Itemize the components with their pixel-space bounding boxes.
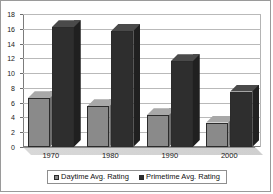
bar-front-face xyxy=(206,123,228,147)
bar-front-face xyxy=(230,92,252,147)
legend-label: Primetime Avg. Rating xyxy=(146,173,220,181)
legend-entry-daytime[interactable]: Daytime Avg. Rating xyxy=(54,173,129,181)
y-axis-tick-mark xyxy=(20,58,23,59)
y-axis-tick-label: 6 xyxy=(1,100,15,107)
x-axis-tick-label: 1980 xyxy=(79,152,141,160)
bar-1970-primetime xyxy=(52,20,74,147)
legend-label: Daytime Avg. Rating xyxy=(61,173,129,181)
y-axis-tick-mark xyxy=(20,117,23,118)
bar-side-face xyxy=(133,24,140,147)
y-axis-tick-label: 10 xyxy=(1,70,15,77)
y-axis-tick-label: 16 xyxy=(1,26,15,33)
y-axis-tick-mark xyxy=(20,88,23,89)
x-axis-tick-label: 2000 xyxy=(198,152,260,160)
y-axis-tick-label: 0 xyxy=(1,144,15,151)
bar-front-face xyxy=(28,98,50,147)
bar-1980-primetime xyxy=(111,24,133,147)
bar-front-face xyxy=(111,31,133,147)
bar-2000-daytime xyxy=(206,116,228,147)
chart-frame: 024681012141618 1970198019902000 Daytime… xyxy=(0,0,271,192)
legend-entry-primetime[interactable]: Primetime Avg. Rating xyxy=(139,173,220,181)
bar-front-face xyxy=(147,115,169,147)
bar-1990-daytime xyxy=(147,108,169,147)
y-axis-tick-mark xyxy=(20,44,23,45)
y-axis-tick-label: 2 xyxy=(1,129,15,136)
gridline xyxy=(23,14,261,15)
y-axis-tick-mark xyxy=(20,29,23,30)
bar-2000-primetime xyxy=(230,85,252,147)
legend-swatch-primetime xyxy=(139,175,144,180)
x-axis-tick-label: 1970 xyxy=(20,152,82,160)
bar-side-face xyxy=(193,54,200,147)
bar-1980-daytime xyxy=(87,99,109,147)
plot-area xyxy=(23,14,261,147)
bar-side-face xyxy=(74,20,81,147)
chart-floor-edge xyxy=(23,147,255,148)
plot-right-border xyxy=(260,14,261,147)
legend-swatch-daytime xyxy=(54,175,59,180)
y-axis-tick-label: 12 xyxy=(1,55,15,62)
bar-side-face xyxy=(252,85,259,147)
bar-1970-daytime xyxy=(28,91,50,147)
y-axis-tick-label: 4 xyxy=(1,114,15,121)
bar-front-face xyxy=(171,61,193,147)
y-axis-tick-label: 14 xyxy=(1,41,15,48)
bar-front-face xyxy=(87,106,109,147)
bar-1990-primetime xyxy=(171,54,193,147)
y-axis-tick-mark xyxy=(20,103,23,104)
y-axis-tick-mark xyxy=(20,14,23,15)
bar-front-face xyxy=(52,27,74,147)
y-axis-tick-label: 8 xyxy=(1,85,15,92)
x-axis-tick-label: 1990 xyxy=(139,152,201,160)
y-axis-tick-mark xyxy=(20,73,23,74)
chart-legend: Daytime Avg. RatingPrimetime Avg. Rating xyxy=(47,170,227,184)
y-axis-tick-mark xyxy=(20,132,23,133)
y-axis-tick-label: 18 xyxy=(1,11,15,18)
